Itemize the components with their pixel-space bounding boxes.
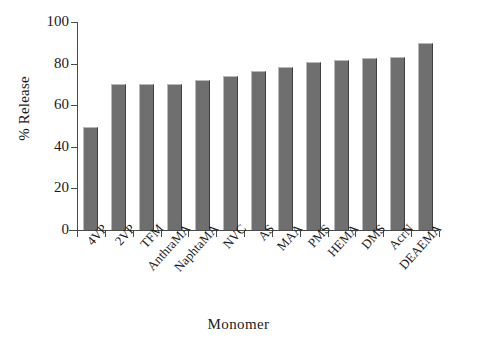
bar [362, 58, 377, 230]
bar [334, 60, 349, 230]
bar [418, 43, 433, 230]
y-tick-mark [71, 105, 77, 106]
bar [306, 62, 321, 230]
y-axis-title: % Release [16, 49, 33, 169]
y-tick-label: 60 [54, 96, 69, 113]
y-tick-mark [71, 147, 77, 148]
bar [223, 76, 238, 230]
bar [195, 80, 210, 230]
y-tick-label: 0 [62, 221, 70, 238]
y-tick-label: 20 [54, 179, 69, 196]
y-tick-label: 40 [54, 138, 69, 155]
x-tick-mark [77, 231, 78, 237]
bar [83, 127, 98, 230]
plot-area: 020406080100 [77, 22, 439, 230]
y-tick-mark [71, 22, 77, 23]
y-tick-mark [71, 188, 77, 189]
bar [167, 84, 182, 230]
y-tick-label: 100 [47, 13, 70, 30]
bar [139, 84, 154, 230]
bar [251, 71, 266, 230]
y-tick-label: 80 [54, 55, 69, 72]
y-tick-mark [71, 64, 77, 65]
bar [278, 67, 293, 230]
bar-chart: % Release 020406080100 4VP2VPTFMAnthraMA… [0, 0, 477, 348]
bar [390, 57, 405, 230]
y-axis-line [77, 22, 78, 231]
x-axis-title: Monomer [0, 316, 477, 333]
bar [111, 84, 126, 230]
